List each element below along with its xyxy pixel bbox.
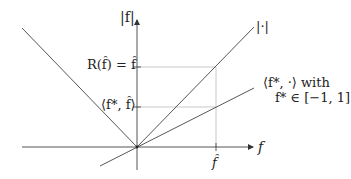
abs-function-label: |·|: [256, 20, 269, 33]
y-tick-label-lower: ⟨f*, f̂⟩: [101, 98, 136, 111]
y-axis-label: |f|: [120, 10, 135, 24]
origin-point: [136, 146, 139, 149]
abs-left-branch: [22, 28, 137, 147]
x-tick-label-fhat: f̂: [212, 156, 217, 169]
linear-function-label-line2: f* ∈ [−1, 1]: [275, 91, 350, 104]
loss-function-diagram: |f| R(f̂) = f̂ ⟨f*, f̂⟩ |·| ⟨f*, ·⟩ with…: [0, 0, 351, 179]
x-axis-label: f: [258, 140, 263, 154]
linear-function-label-line1: ⟨f*, ·⟩ with: [263, 76, 330, 89]
abs-right-branch: [137, 27, 254, 147]
y-tick-label-upper: R(f̂) = f̂: [87, 58, 136, 71]
